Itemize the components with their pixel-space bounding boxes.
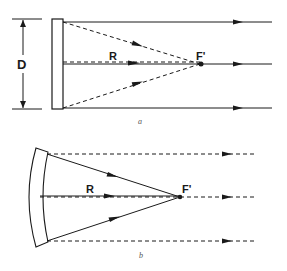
radius-label: R (109, 50, 117, 62)
focal-point (178, 195, 183, 200)
panel-b: F' R b (29, 148, 256, 260)
arrow-icon (132, 41, 143, 47)
focal-point (199, 62, 204, 67)
arrow-icon (222, 239, 232, 244)
arrow-icon (107, 172, 119, 177)
caption-a: a (138, 117, 142, 126)
arrow-icon (128, 61, 140, 66)
panel-a: D F' R a (12, 19, 272, 126)
diameter-dimension: D (12, 19, 42, 109)
diameter-label: D (17, 57, 26, 72)
arrow-icon (233, 62, 243, 67)
arrow-icon (109, 217, 121, 223)
arrow-up-icon (20, 20, 26, 27)
arrow-icon (104, 194, 115, 199)
arrow-down-icon (20, 101, 26, 108)
optics-diagram: D F' R a (0, 0, 287, 271)
radius-label: R (86, 183, 94, 195)
caption-b: b (139, 251, 143, 260)
flat-plate (52, 19, 63, 109)
dashed-ray-bottom (63, 64, 200, 108)
arrow-icon (233, 106, 243, 111)
focus-label: F' (196, 50, 206, 62)
arrow-icon (132, 82, 143, 88)
arrow-icon (233, 20, 243, 25)
dashed-ray-top (63, 22, 200, 64)
arrow-icon (222, 152, 232, 157)
curved-mirror (29, 148, 48, 247)
focus-label: F' (182, 183, 192, 195)
arrow-icon (222, 195, 232, 200)
